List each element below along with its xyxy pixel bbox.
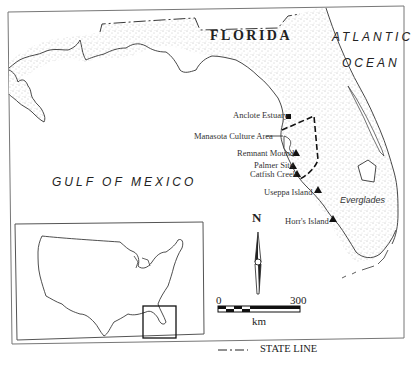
scale-start-label: 0 — [216, 294, 222, 306]
site-label-manasota-culture-area: Manasota Culture Area — [194, 131, 273, 141]
site-label-catfish-creek: Catfish Creek — [250, 169, 297, 179]
florida-label: FLORIDA — [210, 28, 292, 44]
site-label-horrs-island: Horr's Island — [285, 216, 329, 226]
everglades-label: Everglades — [340, 195, 385, 205]
legend-state-line-label: STATE LINE — [260, 343, 317, 354]
scale-end-label: 300 — [290, 294, 307, 306]
north-label: N — [252, 210, 261, 226]
scale-unit-label: km — [252, 315, 266, 327]
atlantic-label: ATLANTIC — [332, 30, 413, 44]
site-label-useppa-island: Useppa Island — [264, 187, 312, 197]
ocean-label: OCEAN — [342, 56, 400, 70]
site-label-anclote-estuary: Anclote Estuary — [233, 110, 288, 120]
gulf-of-mexico-label: GULF OF MEXICO — [52, 175, 196, 189]
scale-bar — [218, 306, 300, 312]
site-label-remnant-mound: Remnant Mound — [237, 148, 294, 158]
